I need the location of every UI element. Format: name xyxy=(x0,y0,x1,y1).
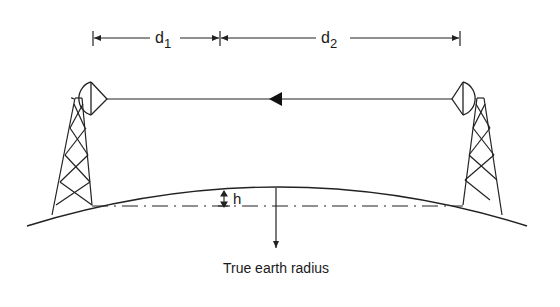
d2-label: d2 xyxy=(321,29,337,51)
h-label: h xyxy=(233,190,241,207)
direction-arrow-icon xyxy=(269,92,282,106)
dimension-lines xyxy=(93,31,460,46)
right-tower xyxy=(463,98,502,215)
right-antenna xyxy=(452,82,475,115)
caption: True earth radius xyxy=(223,260,329,276)
h-indicator xyxy=(218,191,230,207)
earth-bulge-diagram: d1 d2 xyxy=(0,0,560,307)
signal-path xyxy=(107,92,452,106)
left-tower xyxy=(52,98,92,215)
d1-label: d1 xyxy=(155,29,171,51)
